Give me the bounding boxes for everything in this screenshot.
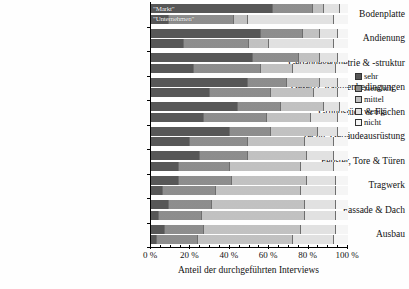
- legend-swatch-nicht: [355, 119, 362, 126]
- chart-legend: sehrziemlichmittelwenignicht: [355, 71, 393, 129]
- x-axis-minor-tick: [288, 245, 289, 248]
- legend-swatch-ziemlich: [355, 85, 362, 92]
- category-row: [151, 223, 348, 248]
- legend-swatch-sehr: [355, 73, 362, 80]
- stacked-bar-chart: BodenplatteAndienungGebäudegeometrie & -…: [0, 0, 409, 289]
- x-axis-tick: [347, 245, 348, 249]
- legend-item-wenig: wenig: [355, 106, 393, 118]
- category-row: [151, 76, 348, 101]
- x-axis-minor-tick: [239, 245, 240, 248]
- legend-swatch-wenig: [355, 108, 362, 115]
- x-axis-minor-tick: [327, 245, 328, 248]
- x-axis-tick: [229, 245, 230, 249]
- legend-item-sehr: sehr: [355, 71, 393, 83]
- x-axis-minor-tick: [317, 245, 318, 248]
- x-axis-tick: [308, 245, 309, 249]
- category-row: [151, 149, 348, 174]
- x-axis-minor-tick: [180, 245, 181, 248]
- x-axis-minor-tick: [199, 245, 200, 248]
- x-axis-minor-tick: [219, 245, 220, 248]
- legend-item-nicht: nicht: [355, 117, 393, 129]
- x-axis-minor-tick: [278, 245, 279, 248]
- legend-label: wenig: [364, 106, 385, 118]
- x-axis-tick: [268, 245, 269, 249]
- legend-label: mittel: [364, 94, 384, 106]
- x-axis-minor-tick: [258, 245, 259, 248]
- category-row: [151, 51, 348, 76]
- legend-swatch-mittel: [355, 96, 362, 103]
- category-row: [151, 27, 348, 52]
- category-row: [151, 2, 348, 27]
- x-axis-minor-tick: [170, 245, 171, 248]
- plot-area: "Markt""Unternehmen": [150, 2, 348, 248]
- x-axis-minor-tick: [249, 245, 250, 248]
- legend-label: sehr: [364, 71, 378, 83]
- x-axis-tick-label: 60 %: [248, 250, 288, 261]
- x-axis-tick: [189, 245, 190, 249]
- x-axis-tick-label: 100 %: [327, 250, 367, 261]
- legend-label: nicht: [364, 117, 381, 129]
- plot-inner: "Markt""Unternehmen": [151, 2, 348, 247]
- legend-item-ziemlich: ziemlich: [355, 83, 393, 95]
- x-axis-tick-label: 80 %: [288, 250, 328, 261]
- category-row: [151, 198, 348, 223]
- x-axis-title: Anteil der durchgeführten Interviews: [150, 265, 347, 275]
- legend-label: ziemlich: [364, 83, 393, 95]
- x-axis-tick-label: 20 %: [169, 250, 209, 261]
- x-axis-tick-label: 0 %: [130, 250, 170, 261]
- legend-item-mittel: mittel: [355, 94, 393, 106]
- x-axis-minor-tick: [209, 245, 210, 248]
- x-axis-minor-tick: [160, 245, 161, 248]
- x-axis-tick: [150, 245, 151, 249]
- x-axis-minor-tick: [298, 245, 299, 248]
- category-row: [151, 125, 348, 150]
- x-axis-tick-label: 40 %: [209, 250, 249, 261]
- category-row: [151, 174, 348, 199]
- x-axis-minor-tick: [337, 245, 338, 248]
- category-row: [151, 100, 348, 125]
